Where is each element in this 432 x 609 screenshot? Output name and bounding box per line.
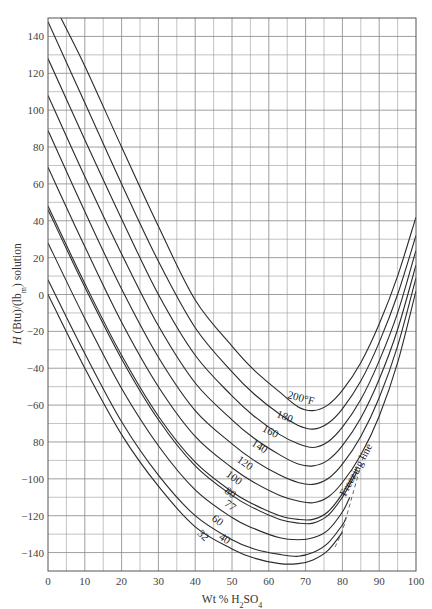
curve-label: 77 [223,497,239,513]
x-tick-label: 40 [190,575,202,587]
y-tick-label: 80 [33,141,45,153]
y-tick-label: 0 [39,289,45,301]
curve-label: 120 [235,453,256,473]
x-tick-label: 60 [263,575,275,587]
y-axis-label: H (Btu)/(lbm) solution [11,243,28,346]
x-axis-ticks: 0102030405060708090100 [45,575,425,587]
y-tick-label: 120 [28,67,45,79]
y-tick-label: 80 [33,436,45,448]
curve-label: 100 [224,468,245,488]
x-tick-label: 20 [116,575,128,587]
y-tick-label: 60 [33,178,45,190]
enthalpy-concentration-chart: Freezing line 200°F180160140120100807760… [0,0,432,609]
y-tick-label: −60 [27,399,45,411]
y-tick-label: −100 [21,473,44,485]
isotherm-200f [61,18,416,411]
curve-label: 60 [210,512,226,529]
y-axis-ticks: 140120100806040200−20−40−6080−100−120−14… [21,30,44,558]
isotherm-40f [48,280,346,557]
x-tick-label: 80 [337,575,349,587]
x-tick-label: 50 [227,575,239,587]
y-tick-label: −40 [27,362,45,374]
y-tick-label: −140 [21,547,44,559]
x-tick-label: 90 [374,575,386,587]
x-tick-label: 0 [45,575,51,587]
y-tick-label: −120 [21,510,44,522]
freezing-line: Freezing line [335,441,374,547]
x-tick-label: 30 [153,575,165,587]
x-axis-label: Wt % H2SO4 [202,593,262,609]
curve-label: 140 [250,436,271,455]
y-tick-label: 20 [33,252,45,264]
y-tick-label: 140 [28,30,45,42]
curve-label: 160 [261,422,282,440]
isotherm-77f [48,210,357,524]
y-tick-label: −20 [27,325,45,337]
x-tick-label: 10 [79,575,91,587]
curve-label: 200°F [287,388,316,407]
y-tick-label: 40 [33,215,45,227]
y-tick-label: 100 [28,104,45,116]
x-tick-label: 100 [408,575,425,587]
x-tick-label: 70 [300,575,312,587]
